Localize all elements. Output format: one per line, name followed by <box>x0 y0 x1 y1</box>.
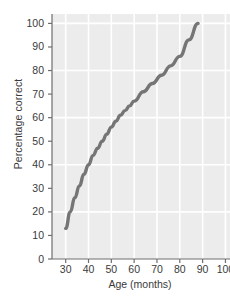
x-axis-tick-label: 100 <box>212 264 230 275</box>
y-axis-title: Percentage correct <box>12 44 24 204</box>
y-axis-tick-label: 0 <box>18 254 44 265</box>
y-axis-tick-label: 10 <box>18 230 44 241</box>
chart-container: 0102030405060708090100 30405060708090100… <box>0 0 230 298</box>
y-axis-tick-label: 20 <box>18 206 44 217</box>
y-axis-tick-label: 100 <box>18 18 44 29</box>
x-axis-title: Age (months) <box>52 278 228 290</box>
